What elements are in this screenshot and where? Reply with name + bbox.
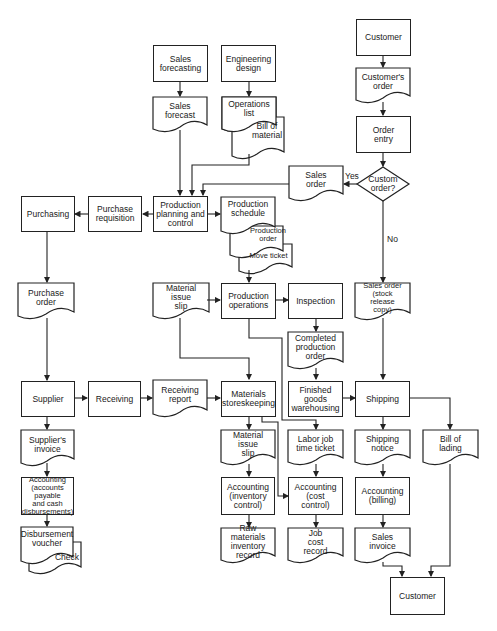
labor-job-time-ticket-label: Labor job time ticket xyxy=(294,435,336,453)
move-ticket-label: Move ticket xyxy=(248,252,290,260)
sales-order-doc: Sales order xyxy=(289,166,343,200)
inspection-box: Inspection xyxy=(288,283,343,319)
finished-goods-box: Finished goods warehousing xyxy=(288,381,343,417)
accounting-inventory-box: Accounting (inventory control) xyxy=(221,477,275,515)
customers-order-doc: Customer's order xyxy=(356,68,410,102)
customer-top-label: Customer xyxy=(363,33,404,42)
bill-of-material-label: Bill of material xyxy=(250,122,284,140)
accounting-cost-label: Accounting (cost control) xyxy=(292,483,338,510)
no-edge-label: No xyxy=(387,234,398,244)
raw-materials-record-label: Raw materials inventory record xyxy=(221,524,275,560)
production-order-doc: Production order xyxy=(252,226,284,250)
material-issue-slip-1-label: Material issue slip xyxy=(164,284,198,311)
sales-order-label: Sales order xyxy=(303,171,328,189)
sales-forecast-label: Sales forecast xyxy=(163,102,197,120)
bill-of-lading-label: Bill of lading xyxy=(437,435,464,453)
accounting-billing-box: Accounting (billing) xyxy=(355,477,410,515)
bill-of-material-doc: Bill of material xyxy=(250,121,284,147)
move-ticket-doc: Move ticket xyxy=(245,250,292,268)
customer-bottom-label: Customer xyxy=(397,592,438,601)
accounting-billing-label: Accounting (billing) xyxy=(359,487,405,505)
disbursement-voucher-label: Disbursement voucher xyxy=(19,530,75,548)
accounting-inventory-label: Accounting (inventory control) xyxy=(225,483,271,510)
purchasing-box: Purchasing xyxy=(21,196,75,232)
purchase-order-label: Purchase order xyxy=(26,289,66,307)
production-schedule-doc: Production schedule xyxy=(221,197,275,227)
check-label: Check xyxy=(53,553,81,562)
check-doc: Check xyxy=(52,553,82,567)
production-order-label: Production order xyxy=(248,227,288,243)
material-issue-slip-1-doc: Material issue slip xyxy=(153,283,209,318)
receiving-label: Receiving xyxy=(94,395,135,404)
job-cost-record-doc: Job cost record xyxy=(288,528,343,562)
purchase-order-doc: Purchase order xyxy=(18,283,74,318)
sales-order-stock-doc: Sales order (stock release copy) xyxy=(355,283,410,319)
order-entry-label: Order entry xyxy=(371,126,397,144)
supplier-box: Supplier xyxy=(21,381,75,417)
production-planning-label: Production planning and control xyxy=(154,201,207,228)
sales-forecasting-label: Sales forecasting xyxy=(158,55,204,73)
receiving-report-doc: Receiving report xyxy=(153,380,207,416)
purchasing-label: Purchasing xyxy=(25,210,72,219)
custom-order-label: Custom order? xyxy=(366,175,399,193)
finished-goods-label: Finished goods warehousing xyxy=(289,386,341,413)
bill-of-lading-doc: Bill of lading xyxy=(423,430,478,464)
job-cost-record-label: Job cost record xyxy=(301,529,329,556)
purchase-requisition-label: Purchase requisition xyxy=(94,205,137,223)
supplier-label: Supplier xyxy=(30,395,65,404)
receiving-box: Receiving xyxy=(88,381,141,417)
production-schedule-label: Production schedule xyxy=(226,200,271,218)
suppliers-invoice-label: Supplier's invoice xyxy=(27,436,68,454)
completed-production-order-label: Completed production order xyxy=(293,334,338,361)
sales-invoice-label: Sales invoice xyxy=(367,533,397,551)
materials-storeskeeping-box: Materials storeskeeping xyxy=(221,381,276,417)
custom-order-decision: Custom order? xyxy=(357,167,409,201)
engineering-design-label: Engineering design xyxy=(224,55,273,73)
material-issue-slip-2-doc: Material issue slip xyxy=(221,430,275,464)
shipping-box: Shipping xyxy=(355,381,410,417)
sales-forecast-doc: Sales forecast xyxy=(153,97,207,131)
sales-forecasting-box: Sales forecasting xyxy=(153,45,208,82)
labor-job-time-ticket-doc: Labor job time ticket xyxy=(288,430,343,464)
accounting-ap-box: Accounting (accounts payable and cash di… xyxy=(21,477,74,515)
customer-bottom-box: Customer xyxy=(390,577,445,615)
operations-list-label: Operations list xyxy=(226,100,272,118)
material-issue-slip-2-label: Material issue slip xyxy=(231,431,265,458)
accounting-cost-box: Accounting (cost control) xyxy=(288,477,343,515)
purchase-requisition-box: Purchase requisition xyxy=(88,196,142,232)
customers-order-label: Customer's order xyxy=(360,73,407,91)
inspection-label: Inspection xyxy=(294,297,337,306)
flowchart: Sales forecasting Engineering design Cus… xyxy=(0,0,497,631)
shipping-notice-label: Shipping notice xyxy=(364,435,401,453)
accounting-ap-label: Accounting (accounts payable and cash di… xyxy=(20,476,75,516)
completed-production-order-doc: Completed production order xyxy=(288,332,343,368)
yes-edge-label: Yes xyxy=(345,171,359,181)
receiving-report-label: Receiving report xyxy=(159,386,200,404)
suppliers-invoice-doc: Supplier's invoice xyxy=(21,430,74,465)
production-planning-box: Production planning and control xyxy=(153,196,208,232)
sales-order-stock-label: Sales order (stock release copy) xyxy=(361,282,403,314)
sales-invoice-doc: Sales invoice xyxy=(355,528,410,562)
production-operations-box: Production operations xyxy=(221,283,276,319)
customer-top-box: Customer xyxy=(356,19,411,56)
engineering-design-box: Engineering design xyxy=(221,45,276,82)
shipping-notice-doc: Shipping notice xyxy=(355,430,410,464)
shipping-label: Shipping xyxy=(364,395,401,404)
materials-storeskeeping-label: Materials storeskeeping xyxy=(220,390,277,408)
order-entry-box: Order entry xyxy=(356,116,411,153)
production-operations-label: Production operations xyxy=(226,292,271,310)
raw-materials-record-doc: Raw materials inventory record xyxy=(221,528,275,562)
